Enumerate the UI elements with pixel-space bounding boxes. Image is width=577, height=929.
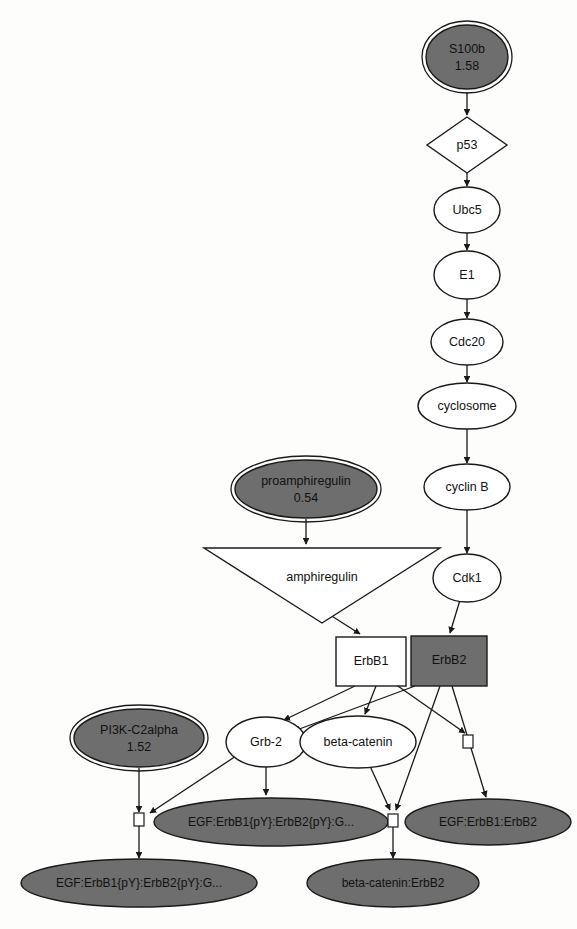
node-cyclosome-label: cyclosome	[437, 399, 496, 413]
node-proamphiregulin[interactable]: proamphiregulin 0.54	[231, 456, 381, 522]
junction-left	[134, 813, 144, 826]
node-cyclin-b-label: cyclin B	[445, 480, 488, 494]
node-erbb1[interactable]: ErbB1	[336, 637, 406, 686]
node-egf-erbb1-erbb2-label: EGF:ErbB1:ErbB2	[439, 815, 537, 829]
node-cdk1-label: Cdk1	[452, 571, 481, 585]
node-amphiregulin-label: amphiregulin	[286, 570, 358, 584]
junction-center	[388, 814, 398, 827]
node-p53-label: p53	[457, 138, 478, 152]
node-beta-catenin-erbb2[interactable]: beta-catenin:ErbB2	[307, 859, 479, 907]
node-erbb2[interactable]: ErbB2	[411, 636, 487, 686]
edge-erbb1-junction-right	[395, 684, 465, 733]
node-amphiregulin[interactable]: amphiregulin	[204, 548, 440, 623]
node-s100b[interactable]: S100b 1.58	[422, 21, 512, 93]
node-pi3k-c2alpha-label: PI3K-C2alpha	[100, 723, 178, 737]
node-beta-catenin[interactable]: beta-catenin	[300, 716, 416, 768]
edge-erbb1-betacatenin	[365, 686, 376, 714]
node-erbb2-label: ErbB2	[432, 653, 467, 667]
node-proamphiregulin-label: proamphiregulin	[261, 474, 351, 488]
node-e1[interactable]: E1	[434, 251, 500, 299]
edge-cdk1-erbb2	[450, 600, 460, 633]
edge-erbb1-grb2	[284, 686, 355, 720]
node-e1-label: E1	[459, 268, 474, 282]
node-cdk1[interactable]: Cdk1	[433, 554, 501, 602]
node-s100b-label: S100b	[449, 42, 485, 56]
node-ubc5[interactable]: Ubc5	[434, 187, 500, 233]
node-egf-erbb1-erbb2[interactable]: EGF:ErbB1:ErbB2	[405, 799, 571, 845]
node-erbb1-label: ErbB1	[354, 654, 389, 668]
node-pi3k-c2alpha-value: 1.52	[127, 740, 151, 754]
node-cyclosome[interactable]: cyclosome	[418, 383, 516, 429]
node-grb-2-label: Grb-2	[250, 735, 282, 749]
node-beta-catenin-label: beta-catenin	[324, 735, 393, 749]
node-cdc20-label: Cdc20	[449, 335, 485, 349]
node-beta-catenin-erbb2-label: beta-catenin:ErbB2	[342, 876, 445, 890]
node-ubc5-label: Ubc5	[452, 203, 481, 217]
node-proamphiregulin-value: 0.54	[294, 491, 318, 505]
edge-betacatenin-junction-center	[370, 766, 390, 810]
pathway-svg: S100b 1.58 p53 Ubc5 E1 Cdc20 cyclosome	[0, 0, 577, 929]
junction-right	[463, 735, 473, 748]
node-cdc20[interactable]: Cdc20	[431, 319, 503, 365]
node-egf-complex-mid[interactable]: EGF:ErbB1{pY}:ErbB2{pY}:G...	[154, 798, 388, 846]
node-cyclin-b[interactable]: cyclin B	[424, 464, 510, 510]
node-pi3k-c2alpha[interactable]: PI3K-C2alpha 1.52	[70, 705, 208, 771]
node-egf-complex-left-label: EGF:ErbB1{pY}:ErbB2{pY}:G...	[56, 876, 222, 890]
node-s100b-value: 1.58	[455, 59, 479, 73]
pathway-diagram-canvas: S100b 1.58 p53 Ubc5 E1 Cdc20 cyclosome	[0, 0, 577, 929]
node-p53[interactable]: p53	[427, 117, 507, 173]
node-egf-complex-left[interactable]: EGF:ErbB1{pY}:ErbB2{pY}:G...	[21, 859, 257, 907]
node-grb-2[interactable]: Grb-2	[226, 717, 306, 767]
node-egf-complex-mid-label: EGF:ErbB1{pY}:ErbB2{pY}:G...	[188, 815, 354, 829]
